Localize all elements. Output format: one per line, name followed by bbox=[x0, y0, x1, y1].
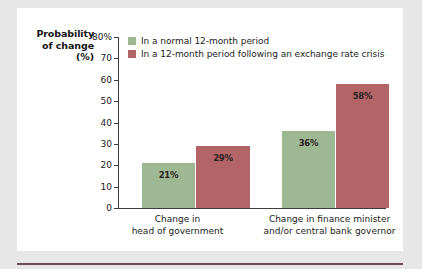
y-tick-label-70: 70 bbox=[101, 53, 112, 63]
legend-item-crisis-period[interactable]: In a 12-month period following an exchan… bbox=[128, 48, 384, 60]
y-tick-mark-30 bbox=[114, 144, 118, 145]
y-tick-label-50: 50 bbox=[101, 96, 112, 106]
x-axis-line bbox=[118, 208, 386, 209]
y-tick-label-10: 10 bbox=[101, 182, 112, 192]
y-tick-mark-80 bbox=[114, 37, 118, 38]
legend-swatch-red-icon bbox=[128, 50, 136, 58]
y-tick-label-80: 80% bbox=[92, 32, 112, 42]
y-axis-title-line-2: of change bbox=[10, 40, 94, 52]
y-tick-mark-40 bbox=[114, 123, 118, 124]
y-axis-title-line-1: Probability bbox=[10, 28, 94, 40]
y-axis-line bbox=[118, 37, 119, 208]
y-tick-mark-70 bbox=[114, 58, 118, 59]
bar-crisis-head-of-government[interactable]: 29% bbox=[196, 146, 250, 208]
y-tick-label-0: 0 bbox=[106, 203, 112, 213]
legend-swatch-green-icon bbox=[128, 37, 136, 45]
y-tick-label-20: 20 bbox=[101, 160, 112, 170]
bar-normal-head-of-government[interactable]: 21% bbox=[142, 163, 195, 208]
bar-label-normal-head-of-government: 21% bbox=[142, 170, 195, 180]
y-tick-mark-20 bbox=[114, 165, 118, 166]
legend-label-normal-period: In a normal 12-month period bbox=[141, 36, 269, 46]
x-category-label-head-of-government-line-2: head of government bbox=[120, 226, 235, 238]
legend-item-normal-period[interactable]: In a normal 12-month period bbox=[128, 35, 384, 47]
x-category-label-finance-minister: Change in finance minister and/or centra… bbox=[252, 214, 407, 237]
x-category-label-head-of-government-line-1: Change in bbox=[120, 214, 235, 226]
y-tick-mark-10 bbox=[114, 187, 118, 188]
bar-label-normal-finance-minister: 36% bbox=[282, 138, 335, 148]
y-tick-label-40: 40 bbox=[101, 118, 112, 128]
y-tick-mark-50 bbox=[114, 101, 118, 102]
chart-figure: Probability of change (%) 0 10 20 30 40 bbox=[0, 0, 422, 269]
y-axis-title-line-3: (%) bbox=[10, 51, 94, 63]
bar-normal-finance-minister[interactable]: 36% bbox=[282, 131, 335, 208]
x-category-label-finance-minister-line-1: Change in finance minister bbox=[252, 214, 407, 226]
bottom-divider-rule bbox=[17, 263, 403, 265]
bar-crisis-finance-minister[interactable]: 58% bbox=[336, 84, 389, 208]
y-axis-title: Probability of change (%) bbox=[10, 28, 94, 63]
bar-label-crisis-finance-minister: 58% bbox=[336, 91, 389, 101]
plot-area: 0 10 20 30 40 50 60 70 bbox=[118, 37, 386, 208]
y-tick-label-60: 60 bbox=[101, 75, 112, 85]
legend-label-crisis-period: In a 12-month period following an exchan… bbox=[141, 49, 384, 59]
y-tick-mark-60 bbox=[114, 80, 118, 81]
x-category-label-finance-minister-line-2: and/or central bank governor bbox=[252, 226, 407, 238]
bar-label-crisis-head-of-government: 29% bbox=[196, 153, 250, 163]
y-tick-label-30: 30 bbox=[101, 139, 112, 149]
chart-legend: In a normal 12-month period In a 12-mont… bbox=[128, 35, 384, 61]
x-category-label-head-of-government: Change in head of government bbox=[120, 214, 235, 237]
y-tick-mark-0 bbox=[114, 208, 118, 209]
